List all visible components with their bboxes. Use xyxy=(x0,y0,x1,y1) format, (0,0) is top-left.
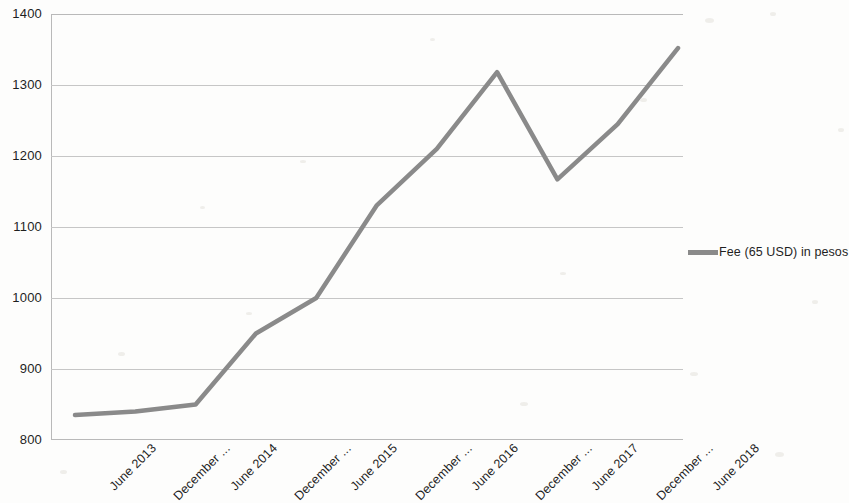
y-axis-tick-label: 1200 xyxy=(12,149,42,162)
y-axis: 14001300120011001000900800 xyxy=(0,0,46,460)
scan-artifact xyxy=(560,272,566,275)
y-axis-tick-label: 1300 xyxy=(12,78,42,91)
scan-artifact xyxy=(430,38,435,41)
scan-artifact xyxy=(118,352,125,356)
scan-artifact xyxy=(770,12,776,16)
scan-artifact xyxy=(300,160,306,163)
x-axis-tick-label: December ... xyxy=(292,441,354,503)
x-axis-tick-label: December ... xyxy=(412,441,474,503)
scan-artifact xyxy=(705,18,714,23)
x-axis-tick-label: June 2017 xyxy=(589,441,641,493)
x-axis-tick-label: June 2016 xyxy=(468,441,520,493)
x-axis-tick-label: December ... xyxy=(653,441,715,503)
chart-legend: Fee (65 USD) in pesos xyxy=(688,245,848,259)
y-axis-tick-label: 1400 xyxy=(12,7,42,20)
series-line xyxy=(75,48,678,415)
legend-label: Fee (65 USD) in pesos xyxy=(719,245,848,259)
y-axis-tick-label: 900 xyxy=(20,362,42,375)
scan-artifact xyxy=(838,128,844,132)
plot-area xyxy=(51,14,683,440)
x-axis-tick-label: June 2015 xyxy=(348,441,400,493)
scan-artifact xyxy=(690,372,698,376)
x-axis-tick-label: June 2013 xyxy=(107,441,159,493)
legend-line-swatch-icon xyxy=(688,250,718,255)
x-axis: June 2013December ...June 2014December .… xyxy=(51,441,683,489)
y-axis-tick-label: 1000 xyxy=(12,291,42,304)
y-axis-tick-label: 1100 xyxy=(13,220,42,233)
x-axis-tick-label: June 2014 xyxy=(227,441,279,493)
series-fee-65-usd-in-pesos xyxy=(51,14,683,440)
x-axis-tick-label: June 2018 xyxy=(710,441,762,493)
scan-artifact xyxy=(812,300,818,304)
scan-artifact xyxy=(200,206,205,209)
scan-artifact xyxy=(60,470,67,474)
y-axis-tick-label: 800 xyxy=(20,433,42,446)
scan-artifact xyxy=(640,98,647,102)
scan-artifact xyxy=(246,312,252,315)
scan-artifact xyxy=(520,402,528,406)
x-axis-tick-label: December ... xyxy=(171,441,233,503)
x-axis-tick-label: December ... xyxy=(533,441,595,503)
scan-artifact xyxy=(775,452,784,457)
